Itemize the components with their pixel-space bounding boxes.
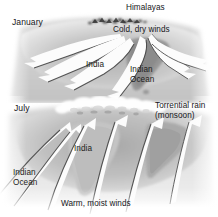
label-india-july: India bbox=[74, 144, 92, 153]
july-panel: July Torrential rain (monsoon) India Ind… bbox=[0, 96, 218, 217]
monsoon-diagram: January Himalayas Cold, dry winds India … bbox=[0, 0, 218, 217]
label-india-january: India bbox=[86, 60, 104, 69]
label-torrential-rain-line1: Torrential rain bbox=[155, 101, 205, 110]
label-january: January bbox=[12, 18, 43, 27]
january-top-fade bbox=[0, 0, 218, 18]
january-panel: January Himalayas Cold, dry winds India … bbox=[0, 0, 218, 103]
label-july: July bbox=[14, 104, 29, 113]
label-warm-moist-winds: Warm, moist winds bbox=[61, 199, 131, 208]
january-island bbox=[143, 90, 149, 94]
label-indian-ocean-january-line2: Ocean bbox=[130, 75, 154, 84]
label-himalayas: Himalayas bbox=[126, 3, 165, 12]
label-indian-ocean-july-line1: Indian bbox=[13, 168, 36, 177]
label-indian-ocean-january-line1: Indian bbox=[130, 65, 153, 74]
label-cold-dry-winds: Cold, dry winds bbox=[113, 25, 170, 34]
january-map-graphic bbox=[0, 0, 218, 103]
label-indian-ocean-july-line2: Ocean bbox=[13, 178, 37, 187]
label-torrential-rain-line2: (monsoon) bbox=[155, 111, 195, 120]
